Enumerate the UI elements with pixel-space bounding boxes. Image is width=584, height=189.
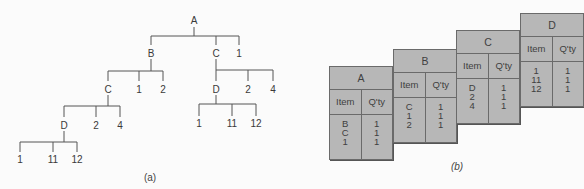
- tree-node-CL-4: 4: [117, 120, 123, 131]
- tree-node-B-1: 1: [136, 84, 142, 95]
- tree-node-CR-2: 2: [245, 84, 251, 95]
- col-qty-header: Q'ty: [489, 54, 520, 78]
- caption-b: (b): [451, 161, 463, 172]
- col-item-header: Item: [394, 73, 426, 97]
- qty: 1: [426, 120, 457, 129]
- qty-column: 111: [426, 98, 457, 142]
- tree-node-CR-4: 4: [270, 84, 276, 95]
- tree-node-DR-12: 12: [250, 118, 261, 129]
- tree-node-A: A: [191, 15, 198, 26]
- col-item-header: Item: [330, 90, 362, 114]
- tree-node-DR-1: 1: [196, 118, 202, 129]
- tree-node-DL-11: 11: [48, 154, 58, 165]
- tree-node-B: B: [148, 48, 155, 59]
- tree-node-CL-2: 2: [93, 120, 99, 131]
- item: 1: [330, 137, 361, 146]
- col-qty-header: Q'ty: [553, 37, 584, 61]
- tree-node-C-right: C: [212, 48, 219, 59]
- qty-column: 111: [489, 79, 520, 123]
- bom-parent: C: [457, 31, 519, 54]
- caption-a: (a): [144, 172, 156, 183]
- bom-parent: A: [330, 67, 392, 90]
- col-item-header: Item: [457, 54, 489, 78]
- tree-node-DL-1: 1: [17, 154, 23, 165]
- item-column: 11112: [521, 62, 553, 106]
- tree-node-DR-11: 11: [227, 118, 237, 129]
- col-qty-header: Q'ty: [426, 73, 457, 97]
- bom-parent: D: [521, 14, 583, 37]
- item-column: D24: [457, 79, 489, 123]
- bom-table-B: B ItemQ'ty C12 111: [393, 49, 457, 143]
- bom-parent: B: [394, 50, 456, 73]
- tree-node-DL-12: 12: [71, 154, 82, 165]
- qty-column: 111: [362, 115, 393, 159]
- item: 4: [457, 101, 488, 110]
- tree-node-C-left: C: [104, 84, 111, 95]
- col-item-header: Item: [521, 37, 553, 61]
- item-column: BC1: [330, 115, 362, 159]
- qty: 1: [489, 101, 520, 110]
- qty: 1: [553, 84, 584, 93]
- product-structure-tree: [0, 0, 300, 189]
- qty-column: 111: [553, 62, 584, 106]
- bom-table-D: D ItemQ'ty 11112 111: [520, 13, 584, 107]
- item: 12: [521, 84, 552, 93]
- qty: 1: [362, 137, 393, 146]
- tree-node-D-right: D: [212, 84, 219, 95]
- bom-table-C: C ItemQ'ty D24 111: [456, 30, 520, 124]
- tree-node-B-2: 2: [160, 84, 166, 95]
- col-qty-header: Q'ty: [362, 90, 393, 114]
- item-column: C12: [394, 98, 426, 142]
- item: 2: [394, 120, 425, 129]
- tree-node-D-left: D: [60, 120, 67, 131]
- tree-node-1-top: 1: [236, 48, 242, 59]
- bom-table-A: A ItemQ'ty BC1 111: [329, 66, 393, 160]
